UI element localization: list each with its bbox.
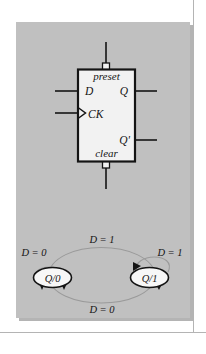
- figure-root: preset D Q CK Q' clear Q/0 Q/1: [0, 0, 206, 354]
- qbar-output-label: Q': [119, 134, 130, 146]
- transition-label-top: D = 1: [88, 234, 114, 245]
- d-input-label: D: [84, 85, 94, 97]
- clear-label: clear: [95, 147, 118, 159]
- q-output-label: Q: [120, 85, 129, 97]
- preset-label: preset: [92, 70, 120, 82]
- ck-input-label: CK: [88, 108, 105, 120]
- transition-label-bottom: D = 0: [88, 304, 115, 315]
- self-loop-right-label: D = 1: [156, 247, 182, 258]
- figure-canvas: preset D Q CK Q' clear Q/0 Q/1: [0, 0, 206, 354]
- self-loop-left-label: D = 0: [20, 247, 47, 258]
- state-label-q1: Q/1: [142, 273, 158, 284]
- state-label-q0: Q/0: [45, 273, 62, 284]
